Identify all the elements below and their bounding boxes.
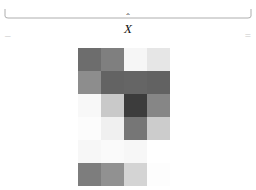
heatmap-cell	[124, 48, 147, 71]
figure-root: ̂ X – =	[0, 0, 256, 190]
heatmap-cell	[78, 117, 101, 140]
heatmap-cell	[124, 117, 147, 140]
heatmap-cell	[101, 163, 124, 186]
left-rule-mark: –	[5, 30, 11, 41]
heatmap-cell	[147, 94, 170, 117]
heatmap-cell	[101, 140, 124, 163]
label-letter: X	[124, 21, 132, 36]
heatmap-cell	[78, 94, 101, 117]
heatmap-cell	[147, 163, 170, 186]
heatmap-cell	[78, 163, 101, 186]
heatmap-cell	[124, 163, 147, 186]
heatmap-cell	[78, 48, 101, 71]
heatmap-cell	[101, 48, 124, 71]
heatmap-cell	[78, 140, 101, 163]
heatmap-cell	[147, 48, 170, 71]
heatmap-cell	[78, 71, 101, 94]
heatmap-cell	[124, 94, 147, 117]
right-rule-mark: =	[245, 30, 251, 41]
heatmap-cell	[147, 140, 170, 163]
heatmap-cell	[124, 71, 147, 94]
heatmap-grid	[78, 48, 170, 186]
heatmap-cell	[147, 71, 170, 94]
heatmap-cell	[124, 140, 147, 163]
heatmap-cell	[101, 71, 124, 94]
heatmap-cell	[101, 117, 124, 140]
label-stack: ̂ X	[124, 22, 132, 35]
heatmap-cell	[147, 117, 170, 140]
brace-label: ̂ X	[0, 22, 256, 35]
heatmap-cell	[101, 94, 124, 117]
